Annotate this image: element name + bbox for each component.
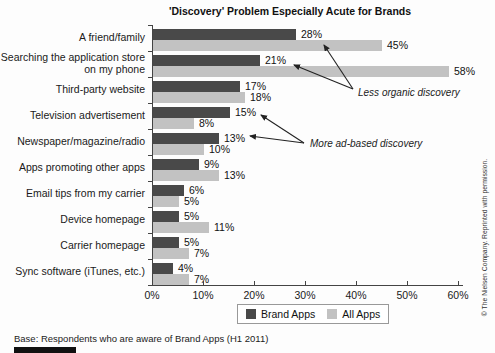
x-tick-label: 50% [387,289,427,301]
copyright-note: © The Nielsen Company. Reprinted with pe… [481,143,488,333]
y-tick [148,207,152,208]
category-label: Third-party website [0,77,152,103]
legend-swatch [246,309,256,319]
category-label: Carrier homepage [0,233,152,259]
chart-row: Apps promoting other apps9%13% [0,155,495,181]
value-label: 45% [387,40,408,51]
bar-brand-apps [153,237,179,248]
annotation-more-ad-based-discovery: More ad-based discovery [310,138,422,149]
y-tick [148,77,152,78]
y-tick [148,51,152,52]
bar-all-apps [153,274,189,285]
chart-row: Sync software (iTunes, etc.)4%7% [0,259,495,285]
y-tick [148,181,152,182]
bar-all-apps [153,170,219,181]
value-label: 28% [301,29,322,40]
annotation-less-organic-discovery: Less organic discovery [358,87,460,98]
value-label: 15% [235,107,256,118]
chart-row: Email tips from my carrier6%5% [0,181,495,207]
bottom-rule [14,347,76,353]
value-label: 13% [224,170,245,181]
value-label: 10% [209,144,230,155]
y-tick [148,103,152,104]
category-label: Device homepage [0,207,152,233]
row-plot: 15%8% [152,103,495,129]
bar-brand-apps [153,185,184,196]
y-tick [148,129,152,130]
chart-title: 'Discovery' Problem Especially Acute for… [120,5,460,17]
category-label: Searching the application store on my ph… [0,51,152,77]
bar-brand-apps [153,159,199,170]
legend: Brand AppsAll Apps [237,304,389,324]
category-label: Apps promoting other apps [0,155,152,181]
base-note: Base: Respondents who are aware of Brand… [14,333,268,344]
row-plot: 5%11% [152,207,495,233]
chart-row: Television advertisement15%8% [0,103,495,129]
row-plot: 6%5% [152,181,495,207]
category-label: Newspaper/magazine/radio [0,129,152,155]
value-label: 7% [194,274,209,285]
bar-all-apps [153,66,449,77]
x-tick [305,281,306,285]
x-tick [356,281,357,285]
bar-brand-apps [153,29,296,40]
value-label: 11% [214,222,234,233]
legend-label: Brand Apps [261,308,315,320]
x-axis-line [152,285,463,286]
value-label: 18% [250,92,271,103]
legend-label: All Apps [342,308,380,320]
bar-all-apps [153,40,382,51]
x-tick [407,281,408,285]
chart-figure: 'Discovery' Problem Especially Acute for… [0,0,495,353]
x-tick-label: 20% [234,289,274,301]
value-label: 5% [184,211,199,222]
legend-item-brand-apps: Brand Apps [246,308,315,320]
x-tick [458,281,459,285]
value-label: 58% [454,66,475,77]
x-tick-label: 60% [438,289,478,301]
bar-brand-apps [153,55,260,66]
value-label: 21% [265,55,286,66]
value-label: 5% [184,196,199,207]
bar-all-apps [153,196,179,207]
row-plot: 21%58% [152,51,495,77]
row-plot: 28%45% [152,25,495,51]
category-label: Sync software (iTunes, etc.) [0,259,152,285]
bar-brand-apps [153,81,240,92]
category-label: A friend/family [0,25,152,51]
row-plot: 5%7% [152,233,495,259]
value-label: 8% [199,118,214,129]
y-axis-line [152,25,153,286]
x-tick [203,281,204,285]
row-plot: 9%13% [152,155,495,181]
legend-item-all-apps: All Apps [327,308,380,320]
y-tick [148,155,152,156]
bar-all-apps [153,144,204,155]
category-label: Television advertisement [0,103,152,129]
bar-rows: A friend/family28%45%Searching the appli… [0,25,495,285]
x-tick-label: 0% [132,289,172,301]
chart-row: Searching the application store on my ph… [0,51,495,77]
y-tick [148,25,152,26]
value-label: 7% [194,248,209,259]
category-label: Email tips from my carrier [0,181,152,207]
x-tick-label: 30% [285,289,325,301]
bar-brand-apps [153,107,230,118]
x-tick-label: 40% [336,289,376,301]
bar-brand-apps [153,211,179,222]
y-tick [148,259,152,260]
value-label: 9% [204,159,219,170]
x-tick [152,281,153,285]
bar-all-apps [153,92,245,103]
chart-row: A friend/family28%45% [0,25,495,51]
bar-all-apps [153,248,189,259]
bar-all-apps [153,118,194,129]
bar-all-apps [153,222,209,233]
y-tick [148,233,152,234]
chart-row: Device homepage5%11% [0,207,495,233]
legend-swatch [327,309,337,319]
chart-row: Carrier homepage5%7% [0,233,495,259]
value-label: 4% [178,263,193,274]
x-tick-label: 10% [183,289,223,301]
bar-brand-apps [153,263,173,274]
